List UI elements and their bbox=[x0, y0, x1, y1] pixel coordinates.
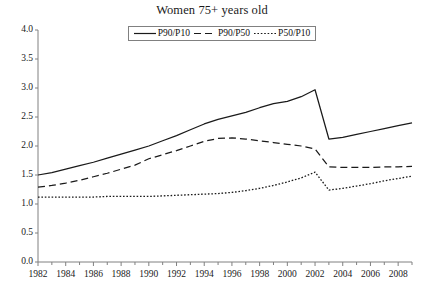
series-line-p90-p10 bbox=[38, 90, 412, 175]
series-group bbox=[38, 90, 412, 197]
legend-label: P90/P50 bbox=[218, 29, 250, 39]
legend-line-icon bbox=[194, 29, 216, 38]
chart-legend: P90/P10P90/P50P50/P10 bbox=[128, 26, 316, 41]
legend-line-icon bbox=[254, 29, 276, 38]
plot-area bbox=[0, 0, 424, 295]
y-tick-label: 1.5 bbox=[6, 170, 33, 180]
legend-entry-p90-p50[interactable]: P90/P50 bbox=[194, 29, 250, 39]
axes-group bbox=[35, 30, 412, 266]
y-tick-label: 0.0 bbox=[6, 257, 33, 267]
y-tick-label: 1.0 bbox=[6, 199, 33, 209]
y-tick-label: 2.0 bbox=[6, 141, 33, 151]
chart-container: Women 75+ years old P90/P10P90/P50P50/P1… bbox=[0, 0, 424, 295]
legend-label: P50/P10 bbox=[278, 29, 310, 39]
legend-entry-p90-p10[interactable]: P90/P10 bbox=[134, 29, 190, 39]
legend-line-icon bbox=[134, 29, 156, 38]
legend-label: P90/P10 bbox=[158, 29, 190, 39]
y-tick-label: 2.5 bbox=[6, 112, 33, 122]
y-tick-label: 3.5 bbox=[6, 54, 33, 64]
legend-entry-p50-p10[interactable]: P50/P10 bbox=[254, 29, 310, 39]
series-line-p50-p10 bbox=[38, 172, 412, 197]
x-tick-label: 2008 bbox=[381, 270, 415, 280]
y-tick-label: 4.0 bbox=[6, 25, 33, 35]
y-tick-label: 3.0 bbox=[6, 83, 33, 93]
y-tick-label: 0.5 bbox=[6, 228, 33, 238]
